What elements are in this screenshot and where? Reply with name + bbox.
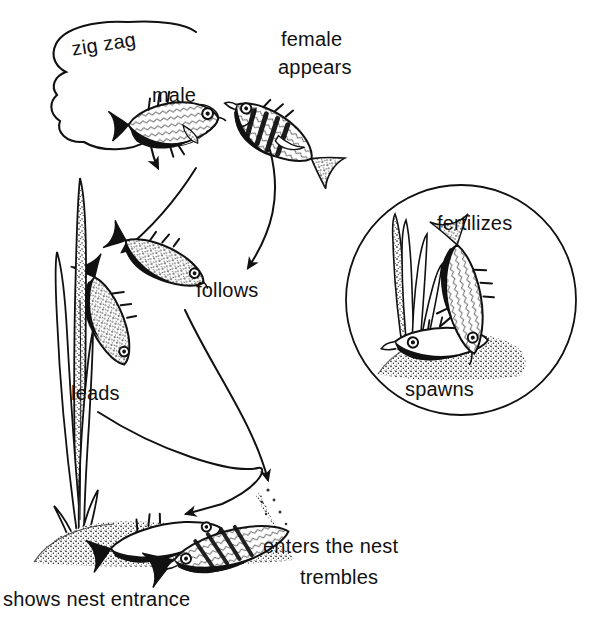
follows-label: follows bbox=[196, 279, 259, 302]
figure-canvas: zig zag male female appears follows lead… bbox=[0, 0, 594, 629]
enters-the-nest-label: enters the nest bbox=[263, 535, 398, 558]
arrow-female-to-follows bbox=[248, 150, 275, 268]
arrow-leads-to-nest-entrance bbox=[98, 412, 262, 514]
trembles-label: trembles bbox=[300, 566, 378, 589]
female-fish-icon bbox=[213, 78, 352, 192]
leads-label: leads bbox=[71, 382, 120, 405]
male-label: male bbox=[152, 84, 196, 107]
appears-label: appears bbox=[278, 56, 352, 79]
arrow-follows-to-nest bbox=[185, 310, 268, 480]
female-label: female bbox=[281, 28, 342, 51]
spawns-label: spawns bbox=[405, 378, 474, 401]
shows-nest-entrance-label: shows nest entrance bbox=[3, 588, 190, 611]
water-weed-icon bbox=[54, 178, 98, 541]
fertilizes-label: fertilizes bbox=[437, 212, 512, 235]
